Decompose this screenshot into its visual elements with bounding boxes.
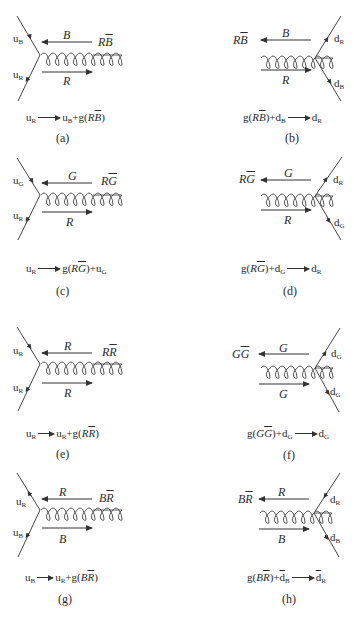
eq-sub: R [32,268,37,276]
gluon-anticolor: G [108,174,117,188]
panel-caption: (d) [283,285,297,297]
color-flow-label-bottom: R [64,387,71,399]
eq-token: )+d [266,111,281,123]
quark-color-sub: R [19,387,24,395]
eq-sub: G [287,433,292,441]
eq-token: g( [62,262,71,274]
reaction-arrow-icon [37,577,53,578]
diagram-panel-c: uG uR G R RG uRg(RG)+uG (c) [0,150,177,300]
color-flow-label-bottom: G [279,388,288,400]
eq-sub: G [280,268,285,276]
quark-color-sub: G [337,353,342,361]
quark-label-top: dG [331,348,342,361]
eq-sub: R [321,577,326,585]
eq-sub: R [32,433,37,441]
reaction-equation: g(GG)+dGdG [247,428,329,441]
color-flow-label-top: G [68,170,77,182]
eq-gluon-anticolor: R [263,571,270,583]
eq-token: +g( [65,571,80,583]
gluon-anticolor: R [106,491,113,505]
color-flow-label-top: G [284,167,293,179]
reaction-equation: g(RG)+dGdR [241,263,321,276]
feynman-diagram-g [0,460,177,617]
reaction-arrow-icon [292,577,314,578]
quark-label-top: uB [13,33,23,46]
color-flow-label-top: B [63,29,70,41]
panel-caption: (e) [56,448,69,460]
color-flow-label-bottom: B [278,533,285,545]
color-flow-label-top: R [278,486,285,498]
eq-sub: R [32,117,37,125]
reaction-equation: g(BR)+dBdR [247,572,326,585]
diagram-panel-a: uB uR B R RB uRuB+g(RB) (a) [0,0,177,150]
gluon-anticolor: G [241,347,250,361]
reaction-equation: g(RB)+dBdR [243,112,322,125]
eq-gluon-anticolor: G [257,262,265,274]
quark-color-sub: R [19,350,24,358]
quark-label-top: uR [16,496,26,509]
gluon-color-label: RB [98,36,113,48]
diagram-panel-b: dR dB B R RB g(RB)+dBdR (b) [177,0,354,150]
eq-sub: G [324,433,329,441]
gluon-anticolor: B [240,33,247,47]
gluon-color-label: BR [238,493,253,505]
quark-label-bottom: uR [13,69,23,82]
quark-label-bottom: uB [13,527,23,540]
gluon-color-label: BR [99,492,114,504]
eq-sub: B [31,577,36,585]
eq-token: )+d [265,262,280,274]
reaction-arrow-icon [295,433,317,434]
quark-color-sub: G [19,180,24,188]
quark-label-bottom: uR [13,382,23,395]
diagram-panel-f: dG dG G G GG g(GG)+dGdG (f) [177,300,354,460]
reaction-arrow-icon [288,117,310,118]
eq-gluon-color: R [252,111,259,123]
feynman-diagram-c [0,150,177,300]
gluon-color-label: RB [233,34,248,46]
reaction-arrow-icon [287,268,309,269]
diagram-panel-e: uR uR R R RR uRuR+g(RR) (e) [0,300,177,460]
reaction-arrow-icon [38,268,60,269]
eq-token: +g( [72,111,87,123]
eq-token: ) [94,571,98,583]
quark-color-sub: R [22,501,27,509]
reaction-equation: uRg(RG)+uG [26,263,106,276]
quark-label-bottom: uR [13,210,23,223]
reaction-equation: uBuR+g(BR) [25,572,98,585]
quark-label-bottom: dB [330,532,340,545]
eq-gluon-anticolor: B [259,111,266,123]
panel-caption: (a) [56,132,69,144]
eq-gluon-color: R [250,262,257,274]
quark-label-top: uG [13,175,24,188]
quark-color-sub: G [340,222,345,230]
feynman-diagram-d [177,150,354,300]
reaction-equation: uRuB+g(RB) [26,112,105,125]
eq-token: g( [247,427,256,439]
eq-sub: G [101,268,106,276]
eq-token: g( [241,262,250,274]
feynman-diagram-h [177,460,354,617]
quark-color-sub: R [339,179,344,187]
panel-caption: (g) [58,593,72,605]
quark-label-bottom: dG [334,217,345,230]
color-flow-label-bottom: R [284,214,291,226]
feynman-diagram-a [0,0,177,150]
eq-gluon-color: G [256,427,264,439]
gluon-color-label: RG [101,175,117,187]
eq-gluon-anticolor: G [264,427,272,439]
color-flow-label-top: B [282,27,289,39]
diagram-panel-g: uR uB R B BR uBuR+g(BR) (g) [0,460,177,617]
quark-color-sub: R [19,215,24,223]
eq-token: g( [247,571,256,583]
gluon-color-label: GG [232,348,249,360]
quark-color-sub: B [336,537,341,545]
color-flow-label-bottom: R [63,75,70,87]
eq-token: )+d [272,427,287,439]
gluon-color-label: RR [102,346,117,358]
quark-color-sub: R [340,38,345,46]
color-flow-label-bottom: B [59,533,66,545]
quark-color-sub: B [19,38,24,46]
reaction-arrow-icon [38,433,54,434]
gluon-anticolor: R [109,345,116,359]
quark-label-bottom: dB [334,78,344,91]
